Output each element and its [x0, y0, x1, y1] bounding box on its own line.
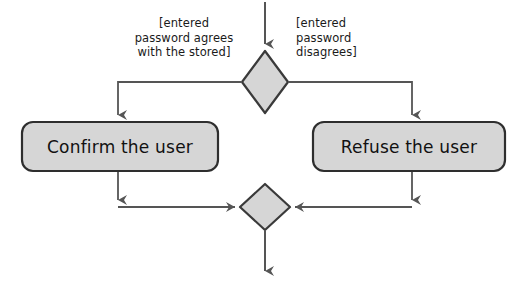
edge-decision-to-confirm — [118, 82, 242, 115]
action-refuse[interactable]: Refuse the user — [313, 122, 505, 171]
activity-diagram-canvas: [entered password agrees with the stored… — [0, 0, 526, 286]
edge-confirm-to-merge — [118, 171, 235, 207]
action-refuse-label: Refuse the user — [313, 137, 505, 157]
decision-node-top — [242, 51, 288, 113]
guard-label-left: [entered password agrees with the stored… — [128, 16, 240, 60]
merge-node-bottom — [240, 184, 290, 230]
edge-refuse-to-merge — [295, 171, 412, 207]
edge-decision-to-refuse — [288, 82, 412, 115]
action-confirm-label: Confirm the user — [22, 137, 218, 157]
action-confirm[interactable]: Confirm the user — [22, 122, 218, 171]
guard-label-right: [entered password disagrees] — [296, 16, 400, 60]
